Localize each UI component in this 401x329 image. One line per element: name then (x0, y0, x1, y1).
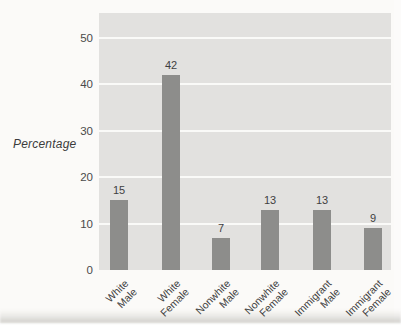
y-tick-label-10: 10 (63, 218, 93, 230)
scan-page-margin (394, 0, 401, 323)
gridline-50 (99, 37, 391, 39)
bar-value-label-nonwhite-female: 13 (250, 194, 290, 206)
y-axis-title: Percentage (13, 137, 76, 151)
gridline-10 (99, 223, 391, 225)
bar-value-label-white-female: 42 (151, 59, 191, 71)
bar-white-female (162, 75, 180, 270)
y-tick-label-50: 50 (63, 32, 93, 44)
gridline-20 (99, 176, 391, 178)
bar-value-label-white-male: 15 (99, 184, 139, 196)
bar-value-label-immigrant-female: 9 (353, 212, 393, 224)
bar-nonwhite-male (212, 238, 230, 270)
bar-value-label-immigrant-male: 13 (302, 194, 342, 206)
bar-immigrant-female (364, 228, 382, 270)
y-tick-label-20: 20 (63, 171, 93, 183)
y-tick-label-40: 40 (63, 78, 93, 90)
bar-immigrant-male (313, 210, 331, 270)
bar-nonwhite-female (261, 210, 279, 270)
plot-area (99, 13, 391, 270)
y-tick-label-30: 30 (63, 125, 93, 137)
gridline-40 (99, 83, 391, 85)
gridline-30 (99, 130, 391, 132)
bar-white-male (110, 200, 128, 270)
y-tick-label-0: 0 (63, 264, 93, 276)
bar-value-label-nonwhite-male: 7 (201, 222, 241, 234)
